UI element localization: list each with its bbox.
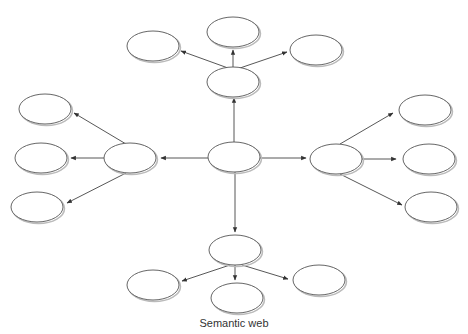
arrow-right-mid-to-right-bottom: [340, 174, 402, 205]
node-top-right: [290, 35, 344, 67]
semantic-web-diagram: [0, 0, 468, 334]
node-ellipse: [104, 143, 156, 173]
arrow-top-mid-to-top-right: [240, 52, 287, 68]
node-center: [208, 142, 262, 174]
node-left-mid: [104, 143, 158, 175]
node-left-center: [15, 143, 69, 175]
node-bottom-right: [293, 265, 347, 297]
node-top-mid: [207, 67, 261, 99]
arrow-left-mid-to-left-bottom: [67, 173, 126, 203]
node-bottom-left: [127, 270, 181, 302]
node-ellipse: [19, 94, 71, 124]
node-left-top: [19, 94, 73, 126]
node-ellipse: [405, 192, 457, 222]
node-ellipse: [207, 17, 259, 47]
node-right-bottom: [405, 192, 459, 224]
node-ellipse: [15, 143, 67, 173]
node-ellipse: [293, 265, 345, 295]
node-bottom-mid: [209, 235, 263, 267]
node-ellipse: [11, 192, 63, 222]
diagram-caption: Semantic web: [0, 317, 468, 329]
node-ellipse: [211, 283, 263, 313]
node-ellipse: [207, 67, 259, 97]
node-bottom-center: [211, 283, 265, 315]
node-ellipse: [127, 270, 179, 300]
node-right-mid: [310, 144, 364, 176]
node-ellipse: [208, 142, 260, 172]
node-ellipse: [209, 235, 261, 265]
node-right-center: [403, 144, 457, 176]
node-right-top: [399, 95, 453, 127]
node-ellipse: [403, 144, 455, 174]
arrow-top-mid-to-top-left: [181, 51, 228, 68]
arrow-left-mid-to-left-top: [74, 113, 126, 144]
node-left-bottom: [11, 192, 65, 224]
node-ellipse: [399, 95, 451, 125]
node-ellipse: [127, 31, 179, 61]
node-ellipse: [310, 144, 362, 174]
arrow-bottom-mid-to-bottom-right: [242, 265, 288, 279]
node-top: [207, 17, 261, 49]
node-ellipse: [290, 35, 342, 65]
arrow-right-mid-to-right-top: [340, 113, 393, 144]
arrow-bottom-mid-to-bottom-left: [182, 265, 230, 281]
node-top-left: [127, 31, 181, 63]
